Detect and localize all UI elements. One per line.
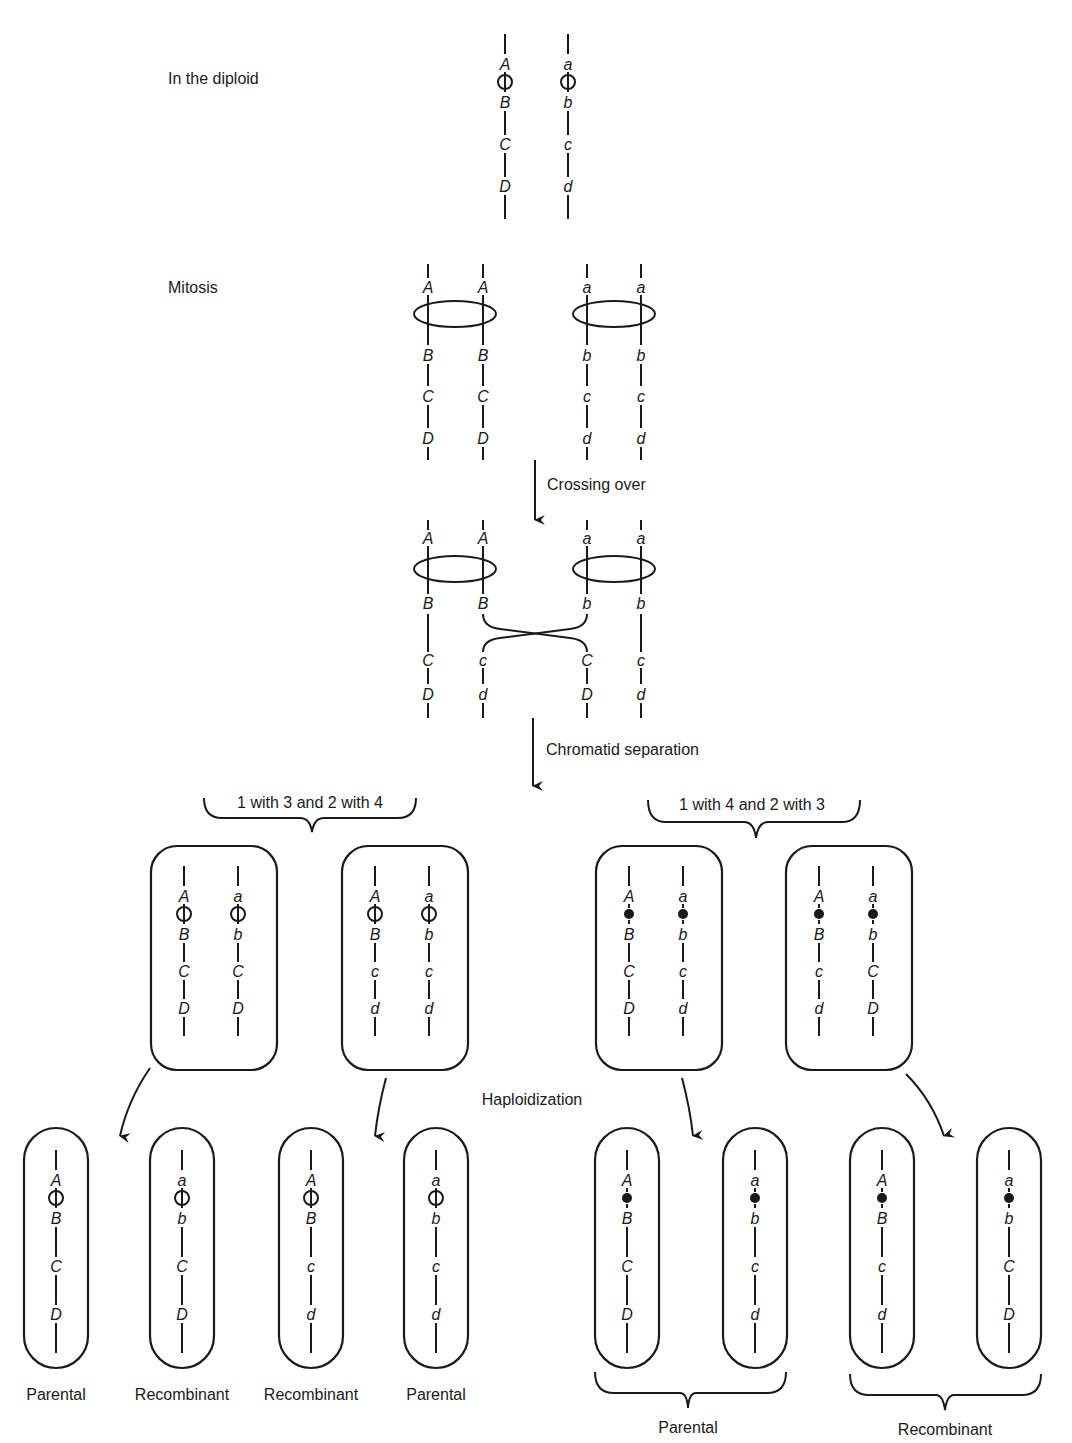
gene-label: A <box>422 279 434 296</box>
gene-label: D <box>422 686 434 703</box>
gene-label: b <box>234 926 243 943</box>
centromere-filled-icon <box>678 909 688 919</box>
daughter-nuclei: ABCDabCDABcdabcdABCDabcdABcdabCD <box>151 846 912 1070</box>
mitotic-crossover-diagram: In the diploid Mitosis ABCDabcd ABCDABCD… <box>0 0 1072 1443</box>
gene-label: d <box>425 1000 435 1017</box>
stage-label-chromatid-separation: Chromatid separation <box>546 741 699 758</box>
gene-label: B <box>179 926 190 943</box>
gene-label: D <box>1003 1306 1015 1323</box>
gene-label: C <box>232 963 244 980</box>
gene-label: d <box>679 1000 689 1017</box>
centromere-filled-icon <box>622 1193 632 1203</box>
centromere-filled-icon <box>750 1193 760 1203</box>
gene-label: A <box>499 56 511 73</box>
gene-label: B <box>423 595 434 612</box>
gene-label: d <box>637 430 647 447</box>
gene-label: A <box>178 888 190 905</box>
gene-label: b <box>869 926 878 943</box>
gene-label: D <box>178 1000 190 1017</box>
gene-label: D <box>499 178 511 195</box>
nucleus-box <box>596 846 722 1070</box>
gene-label: A <box>621 1172 633 1189</box>
gene-label: b <box>583 595 592 612</box>
gene-label: a <box>583 279 592 296</box>
gene-label: B <box>370 926 381 943</box>
gene-label: b <box>751 1210 760 1227</box>
centromere-filled-icon <box>814 909 824 919</box>
gene-label: A <box>422 530 434 547</box>
gene-label: A <box>50 1172 62 1189</box>
group-brace-recombinant <box>850 1374 1041 1410</box>
gene-label: C <box>178 963 190 980</box>
gene-label: C <box>422 388 434 405</box>
nucleus-box <box>786 846 912 1070</box>
gene-label: D <box>623 1000 635 1017</box>
gene-label: d <box>583 430 593 447</box>
gene-label: B <box>622 1210 633 1227</box>
gene-label: c <box>751 1258 759 1275</box>
gene-label: c <box>432 1258 440 1275</box>
group-label-parental: Parental <box>658 1419 718 1436</box>
grouping-label-right: 1 with 4 and 2 with 3 <box>679 796 825 813</box>
gene-label: B <box>51 1210 62 1227</box>
arrow-curved-icon <box>120 1068 150 1136</box>
gene-label: C <box>50 1258 62 1275</box>
gene-label: c <box>307 1258 315 1275</box>
gene-label: A <box>623 888 635 905</box>
gene-label: D <box>867 1000 879 1017</box>
gene-label: b <box>583 347 592 364</box>
gene-label: A <box>305 1172 317 1189</box>
gene-label: c <box>815 963 823 980</box>
gene-label: B <box>478 595 489 612</box>
gene-label: D <box>232 1000 244 1017</box>
stage-label-haploidization: Haploidization <box>482 1091 583 1108</box>
gene-label: d <box>371 1000 381 1017</box>
arrow-curved-icon <box>682 1078 693 1136</box>
stage-label-diploid: In the diploid <box>168 70 259 87</box>
gene-label: a <box>869 888 878 905</box>
gene-label: A <box>477 530 489 547</box>
crossover-strand-2 <box>483 614 587 652</box>
haploid-segregants: ABCDParentalabCDRecombinantABcdRecombina… <box>24 1128 1041 1403</box>
gene-label: A <box>876 1172 888 1189</box>
stage-label-crossing-over: Crossing over <box>547 476 646 493</box>
gene-label: b <box>1005 1210 1014 1227</box>
haploid-type-label: Parental <box>26 1386 86 1403</box>
gene-label: c <box>878 1258 886 1275</box>
gene-label: B <box>306 1210 317 1227</box>
gene-label: C <box>621 1258 633 1275</box>
gene-label: a <box>637 279 646 296</box>
gene-label: a <box>234 888 243 905</box>
gene-label: d <box>751 1306 761 1323</box>
gene-label: A <box>477 279 489 296</box>
gene-label: b <box>564 94 573 111</box>
gene-label: C <box>1003 1258 1015 1275</box>
nucleus-box <box>342 846 468 1070</box>
diploid-chromosomes: ABCDabcd <box>498 34 575 219</box>
gene-label: d <box>878 1306 888 1323</box>
gene-label: b <box>679 926 688 943</box>
gene-label: C <box>623 963 635 980</box>
crossover-chromatids: ABCDABcdabCDabcd <box>414 520 655 718</box>
gene-label: c <box>637 388 645 405</box>
gene-label: D <box>581 686 593 703</box>
gene-label: D <box>50 1306 62 1323</box>
gene-label: a <box>637 530 646 547</box>
haploid-type-label: Recombinant <box>264 1386 359 1403</box>
gene-label: a <box>178 1172 187 1189</box>
group-label-recombinant: Recombinant <box>898 1421 993 1438</box>
haploid-type-label: Parental <box>406 1386 466 1403</box>
gene-label: B <box>814 926 825 943</box>
gene-label: C <box>176 1258 188 1275</box>
gene-label: C <box>422 652 434 669</box>
gene-label: D <box>422 430 434 447</box>
gene-label: a <box>564 56 573 73</box>
gene-label: d <box>307 1306 317 1323</box>
gene-label: c <box>583 388 591 405</box>
gene-label: c <box>679 963 687 980</box>
centromere-filled-icon <box>1004 1193 1014 1203</box>
gene-label: C <box>477 388 489 405</box>
gene-label: d <box>637 686 647 703</box>
gene-label: B <box>877 1210 888 1227</box>
gene-label: a <box>425 888 434 905</box>
